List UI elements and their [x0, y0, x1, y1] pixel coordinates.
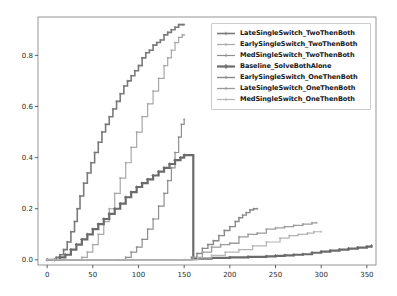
legend-item[interactable]: LateSingleSwitch_TwoThenBoth	[216, 28, 365, 39]
svg-text:200: 200	[223, 271, 236, 279]
legend-item[interactable]: EarlySingleSwitch_TwoThenBoth	[216, 39, 365, 50]
legend-item[interactable]: MedSingleSwitch_TwoThenBoth	[216, 50, 365, 61]
chart-legend: LateSingleSwitch_TwoThenBoth EarlySingle…	[211, 23, 371, 110]
legend-swatch-line	[216, 94, 236, 105]
legend-swatch-line	[216, 28, 236, 39]
svg-text:0.0: 0.0	[22, 256, 33, 264]
svg-text:0.6: 0.6	[22, 103, 34, 111]
svg-text:0.2: 0.2	[22, 205, 33, 213]
svg-text:0.4: 0.4	[22, 154, 34, 162]
svg-text:350: 350	[360, 271, 373, 279]
legend-swatch-line	[216, 61, 236, 72]
svg-text:0: 0	[45, 271, 49, 279]
legend-item[interactable]: Baseline_SolveBothAlone	[216, 61, 365, 72]
legend-item-label: LateSingleSwitch_TwoThenBoth	[240, 28, 355, 39]
svg-text:0.8: 0.8	[22, 52, 33, 60]
svg-text:50: 50	[88, 271, 97, 279]
chart-figure: 0501001502002503003500.00.20.40.60.8 Lat…	[0, 0, 397, 296]
svg-text:300: 300	[315, 271, 328, 279]
legend-item[interactable]: LateSingleSwitch_OneThenBoth	[216, 83, 365, 94]
legend-item-label: MedSingleSwitch_TwoThenBoth	[240, 50, 355, 61]
legend-item-label: EarlySingleSwitch_TwoThenBoth	[240, 39, 357, 50]
legend-swatch-line	[216, 83, 236, 94]
legend-swatch-line	[216, 39, 236, 50]
legend-item[interactable]: MedSingleSwitch_OneThenBoth	[216, 94, 365, 105]
svg-text:150: 150	[177, 271, 190, 279]
legend-item-label: EarlySingleSwitch_OneThenBoth	[240, 72, 358, 83]
legend-swatch-line	[216, 50, 236, 61]
legend-item-label: MedSingleSwitch_OneThenBoth	[240, 94, 355, 105]
svg-text:250: 250	[269, 271, 282, 279]
legend-item-label: Baseline_SolveBothAlone	[240, 61, 331, 72]
legend-swatch-line	[216, 72, 236, 83]
legend-item[interactable]: EarlySingleSwitch_OneThenBoth	[216, 72, 365, 83]
legend-item-label: LateSingleSwitch_OneThenBoth	[240, 83, 355, 94]
svg-text:100: 100	[132, 271, 145, 279]
